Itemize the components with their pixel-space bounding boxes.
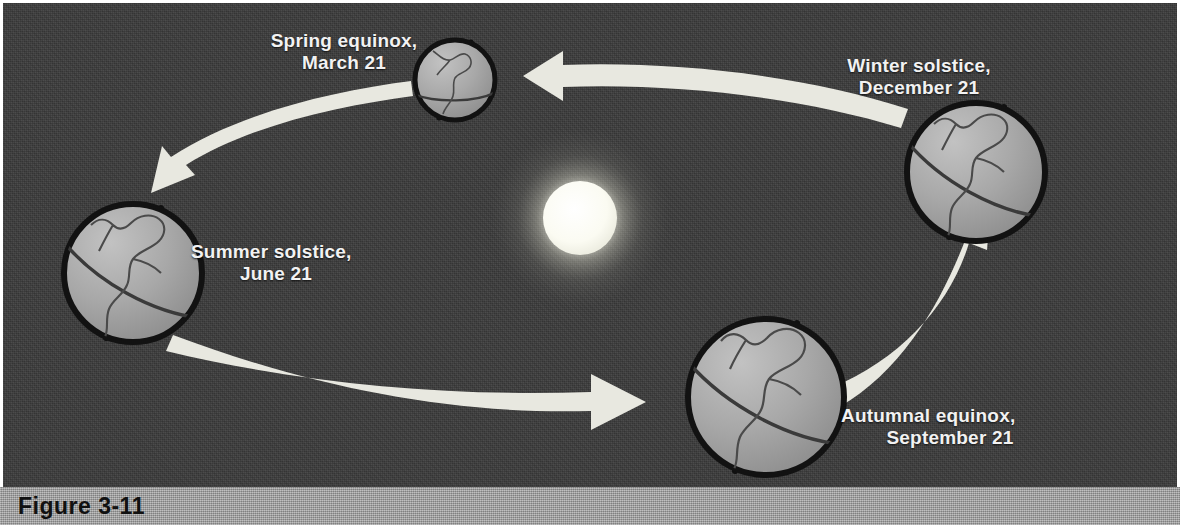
frame-edge-left xyxy=(0,0,3,487)
sun xyxy=(490,128,670,308)
globe-spring-equinox xyxy=(413,40,498,120)
arrow-summer-to-autumn xyxy=(166,335,646,430)
diagram-canvas xyxy=(3,3,1177,487)
figure-caption: Figure 3-11 xyxy=(18,493,145,520)
diagram-scene: Spring equinox, March 21 Winter solstice… xyxy=(3,3,1177,487)
globe-sphere-winter xyxy=(907,103,1045,241)
globe-summer-solstice xyxy=(61,204,209,344)
frame-edge-top xyxy=(0,0,1180,3)
sun-disk xyxy=(543,181,617,255)
globe-sphere-summer xyxy=(64,204,202,342)
seasons-figure: Spring equinox, March 21 Winter solstice… xyxy=(0,0,1180,525)
arrow-winter-to-spring xyxy=(523,51,908,128)
globe-sphere-autumn xyxy=(688,319,844,475)
arrow-spring-to-summer xyxy=(151,81,413,193)
caption-bar: Figure 3-11 xyxy=(0,487,1180,525)
globe-autumnal-equinox xyxy=(687,319,849,475)
globe-winter-solstice xyxy=(904,103,1052,241)
